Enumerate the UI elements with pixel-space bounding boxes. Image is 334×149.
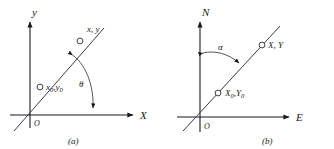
panel-b: N E X, Y X0,Y0 α O (b)	[167, 0, 334, 149]
coordinate-systems-figure: y X x, y x0,y0 θ O (a)	[0, 0, 334, 149]
y-axis-label: y	[31, 6, 37, 18]
e-axis-label: E	[295, 111, 303, 123]
n-axis-label: N	[201, 6, 210, 18]
alpha-label: α	[218, 42, 223, 52]
point-lower-label: x0,y0	[45, 82, 64, 93]
point-marker-lower	[37, 84, 43, 90]
point-marker-upper	[77, 38, 83, 44]
x-axis-label: X	[139, 109, 148, 121]
panel-a-caption: (a)	[68, 136, 79, 146]
point-upper-label: x, y	[86, 24, 100, 34]
point-lower-sub2: 0	[241, 92, 245, 99]
panel-b-caption: (b)	[262, 136, 273, 146]
theta-label: θ	[79, 79, 84, 89]
point-marker-upper	[259, 42, 265, 48]
alpha-arc	[203, 52, 239, 63]
origin-label: O	[34, 119, 40, 128]
panel-a: y X x, y x0,y0 θ O (a)	[0, 0, 167, 149]
point-lower-sub2: 0	[60, 86, 64, 93]
point-upper-label: X, Y	[267, 40, 284, 50]
origin-label: O	[204, 122, 210, 131]
data-line	[183, 26, 280, 131]
point-lower-label: X0,Y0	[224, 88, 245, 99]
point-marker-lower	[215, 90, 221, 96]
